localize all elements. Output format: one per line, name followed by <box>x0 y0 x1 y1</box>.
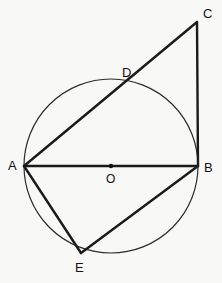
vertex-label-a: A <box>8 159 17 172</box>
vertex-label-e: E <box>75 261 84 274</box>
segment-a-e <box>24 166 81 253</box>
center-label-o: O <box>106 173 115 185</box>
segment-e-b <box>81 166 198 253</box>
geometry-canvas <box>0 0 222 283</box>
vertex-label-b: B <box>204 161 213 174</box>
geometry-figure: A B C D E O <box>0 0 222 283</box>
center-point-O <box>109 164 113 168</box>
vertex-label-c: C <box>203 7 212 20</box>
segment-c-b <box>197 22 198 166</box>
vertex-label-d: D <box>122 66 131 79</box>
segment-a-c <box>24 22 197 166</box>
